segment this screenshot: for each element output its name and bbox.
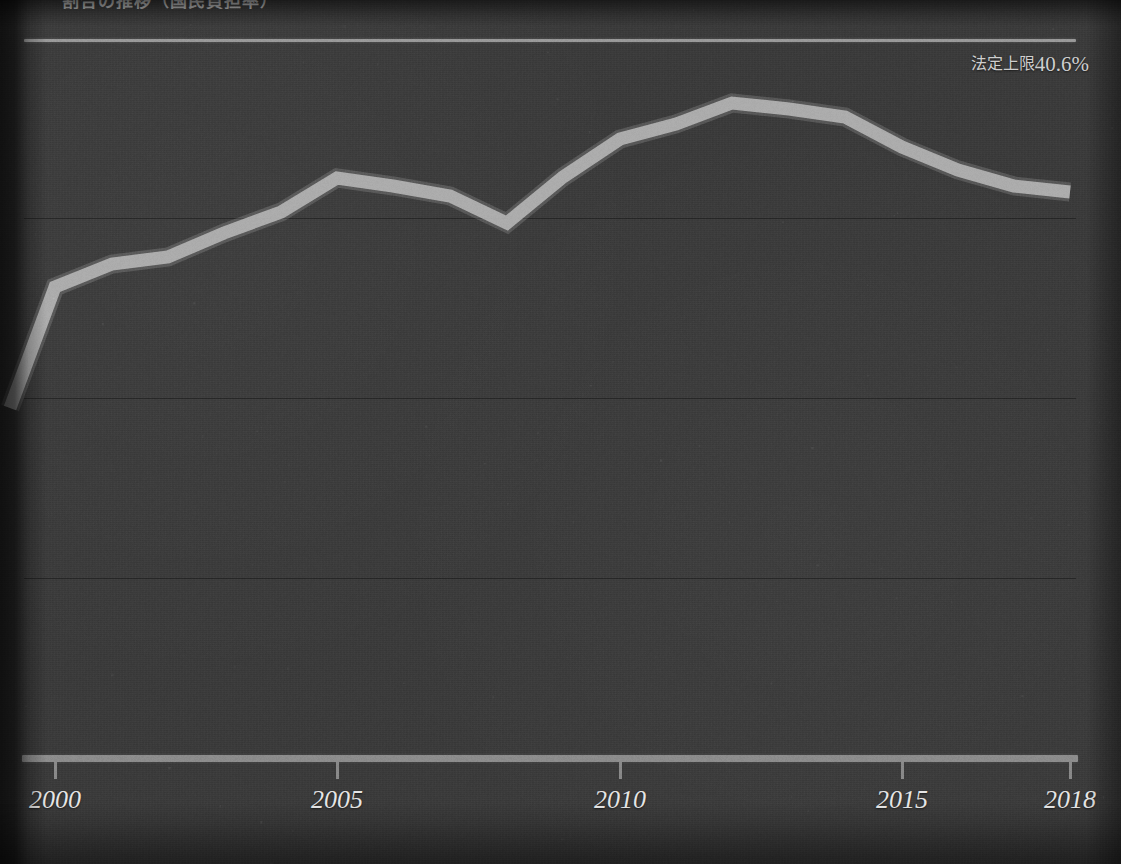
x-axis-label: 2018 — [1044, 785, 1096, 815]
x-axis-tick — [54, 762, 57, 779]
plot-area: 法定上限40.6% 20002005201020152018 — [0, 0, 1121, 864]
x-axis-line — [22, 755, 1078, 762]
x-axis-label: 2005 — [311, 785, 363, 815]
x-axis-tick — [1069, 762, 1072, 779]
series-line-chart — [0, 0, 1121, 864]
x-axis-tick — [901, 762, 904, 779]
x-axis-label: 2010 — [594, 785, 646, 815]
x-axis-tick — [619, 762, 622, 779]
x-axis-label: 2000 — [29, 785, 81, 815]
x-axis-label: 2015 — [876, 785, 928, 815]
x-axis-tick — [336, 762, 339, 779]
chart-screenshot: 割合の推移（国民負担率） 法定上限40.6% 20002005201020152… — [0, 0, 1121, 864]
series-line — [10, 103, 1070, 408]
